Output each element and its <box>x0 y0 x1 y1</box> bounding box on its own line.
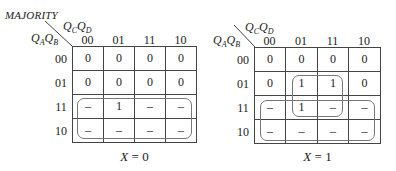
cell: 0 <box>318 48 349 72</box>
cell: 0 <box>286 48 318 72</box>
cell: 0 <box>349 48 380 72</box>
cell: 0 <box>255 72 286 96</box>
row-header: 11 <box>52 100 70 115</box>
row-header: 10 <box>52 124 70 139</box>
cell: 0 <box>349 72 380 96</box>
map-caption: X = 0 <box>72 149 197 165</box>
row-header: 01 <box>234 77 252 92</box>
grouping-loop <box>77 98 192 139</box>
cell: 0 <box>104 71 135 95</box>
grouping-loop <box>260 100 375 141</box>
cell: 0 <box>255 48 286 72</box>
row-variables: QAQB <box>31 31 58 47</box>
row-variables: QAQB <box>213 33 240 49</box>
map-caption: X = 1 <box>254 149 381 165</box>
cell: 0 <box>73 71 104 95</box>
kmap-grid: 0 0 0 0 0 0 0 0 – 1 – – – – – – <box>72 46 197 143</box>
cell: 0 <box>166 71 196 95</box>
row-header: 10 <box>234 125 252 140</box>
cell: 0 <box>135 47 166 71</box>
cell: 0 <box>104 47 135 71</box>
cell: 0 <box>135 71 166 95</box>
row-header: 11 <box>234 101 252 116</box>
kmap-grid: 0 0 0 0 0 1 1 0 – 1 – – – – – – <box>254 47 381 144</box>
row-header: 00 <box>52 52 70 67</box>
row-header: 01 <box>52 76 70 91</box>
cell: 0 <box>73 47 104 71</box>
cell: 0 <box>166 47 196 71</box>
row-header: 00 <box>234 53 252 68</box>
